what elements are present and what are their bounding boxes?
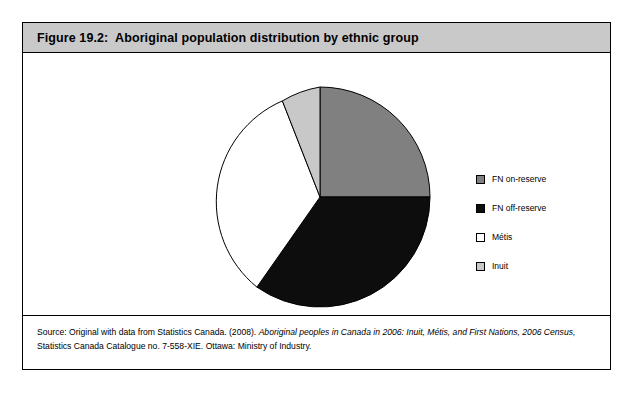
chart-area: FN on-reserve FN off-reserve Métis Inuit xyxy=(23,53,610,315)
legend-item-metis: Métis xyxy=(476,231,606,243)
figure-caption-bar: Figure 19.2: Aboriginal population distr… xyxy=(23,23,610,53)
pie-chart xyxy=(209,86,431,308)
source-note: Source: Original with data from Statisti… xyxy=(23,315,610,354)
legend-label: FN on-reserve xyxy=(492,175,546,184)
legend-item-fn-on-reserve: FN on-reserve xyxy=(476,173,606,185)
legend-swatch-icon xyxy=(476,233,485,242)
source-suffix: Statistics Canada Catalogue no. 7-558-XI… xyxy=(37,341,312,351)
legend-swatch-icon xyxy=(476,262,485,271)
legend-label: FN off-reserve xyxy=(492,204,546,213)
pie-slice-fn-on-reserve xyxy=(320,87,430,197)
legend: FN on-reserve FN off-reserve Métis Inuit xyxy=(476,173,606,272)
figure-container: Figure 19.2: Aboriginal population distr… xyxy=(22,22,611,370)
figure-caption: Figure 19.2: Aboriginal population distr… xyxy=(23,31,419,45)
pie-chart-svg xyxy=(209,86,431,308)
source-title: Aboriginal peoples in Canada in 2006: In… xyxy=(259,327,576,337)
legend-item-inuit: Inuit xyxy=(476,260,606,272)
legend-label: Métis xyxy=(492,233,512,242)
legend-swatch-icon xyxy=(476,175,485,184)
legend-item-fn-off-reserve: FN off-reserve xyxy=(476,202,606,214)
legend-swatch-icon xyxy=(476,204,485,213)
legend-label: Inuit xyxy=(492,262,508,271)
source-prefix: Source: Original with data from Statisti… xyxy=(37,327,259,337)
